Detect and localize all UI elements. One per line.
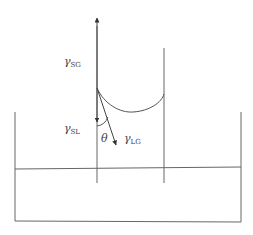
label-theta: θ: [101, 133, 108, 144]
subscript-lg: LG: [131, 138, 141, 146]
subscript-sl: SL: [71, 128, 80, 136]
capillary-diagram: γSG γSL θ γLG: [0, 0, 253, 235]
diagram-canvas: [0, 0, 253, 235]
meniscus: [97, 88, 164, 112]
theta-symbol: θ: [101, 132, 108, 145]
gamma-symbol: γ: [64, 55, 71, 68]
subscript-sg: SG: [71, 61, 81, 69]
label-gamma-sl: γSL: [64, 123, 80, 136]
gamma-symbol: γ: [64, 122, 71, 135]
gamma-symbol: γ: [124, 132, 131, 145]
liquid-surface: [15, 167, 241, 169]
label-gamma-sg: γSG: [64, 56, 81, 69]
contact-angle-arc: [97, 117, 108, 126]
label-gamma-lg: γLG: [124, 133, 141, 146]
